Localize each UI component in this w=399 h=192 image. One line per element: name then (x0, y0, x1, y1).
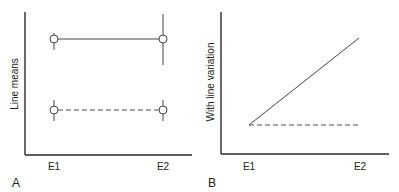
panel-b: E1 E2 With line variation B (205, 12, 389, 190)
panel-a-marker-e2-dashed (159, 106, 167, 114)
figure: E1 E2 Line means A E1 E2 With line varia… (0, 0, 399, 192)
panel-b-solid-line (249, 38, 359, 125)
panel-a: E1 E2 Line means A (9, 12, 192, 190)
panel-a-marker-e1-dashed (50, 106, 58, 114)
panel-a-label: A (12, 176, 20, 190)
panel-a-tick-e2: E2 (157, 161, 170, 172)
panel-a-tick-e1: E1 (48, 161, 61, 172)
panel-a-marker-e2-solid (159, 35, 167, 43)
panel-b-label: B (208, 176, 216, 190)
panel-b-y-label: With line variation (205, 43, 216, 122)
panel-b-tick-e2: E2 (354, 161, 367, 172)
panel-a-y-label: Line means (9, 58, 20, 110)
panel-a-marker-e1-solid (50, 35, 58, 43)
panel-b-tick-e1: E1 (243, 161, 256, 172)
